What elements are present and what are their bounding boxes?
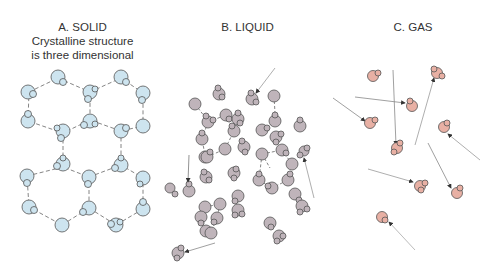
liquid-molecule xyxy=(172,245,184,261)
gas-motion-arrows xyxy=(333,70,480,250)
ice-molecule xyxy=(80,201,97,216)
liquid-molecule xyxy=(294,117,306,132)
gas-arrow xyxy=(333,98,365,121)
ice-molecule xyxy=(54,155,71,171)
liquid-molecule xyxy=(202,113,216,128)
ice-molecule xyxy=(54,124,70,142)
gas-molecule xyxy=(407,98,418,112)
gas-molecule xyxy=(368,70,382,82)
liquid-molecule xyxy=(211,212,223,225)
liquid-molecule xyxy=(265,182,278,194)
ice-molecule xyxy=(114,70,130,86)
gas-arrow xyxy=(448,134,480,160)
liquid-molecule xyxy=(253,171,265,186)
gas-molecule xyxy=(439,120,451,133)
gas-molecule xyxy=(377,212,389,224)
gas-arrow xyxy=(428,143,451,188)
liquid-molecule xyxy=(296,200,310,215)
liquid-molecule xyxy=(214,198,226,210)
ice-molecule xyxy=(20,169,34,187)
states-of-water-diagram: A. SOLID Crystalline structure is three … xyxy=(0,0,496,270)
liquid-molecule xyxy=(256,148,268,160)
ice-molecule xyxy=(81,114,99,129)
gas-molecule xyxy=(365,117,379,129)
ice-molecule xyxy=(136,199,150,217)
ice-molecule xyxy=(21,85,37,99)
liquid-molecule xyxy=(165,183,178,197)
liquid-molecule xyxy=(264,217,276,230)
liquid-molecule xyxy=(270,131,284,145)
ice-molecule xyxy=(114,124,130,138)
liquid-molecule xyxy=(200,169,212,183)
liquid-arrow xyxy=(304,158,314,198)
ice-molecule xyxy=(112,155,129,172)
liquid-molecule xyxy=(286,158,298,170)
gas-arrow xyxy=(393,70,396,145)
liquid-molecule xyxy=(196,130,208,145)
liquid-molecule xyxy=(183,181,195,197)
liquid-molecule xyxy=(213,85,225,100)
liquid-molecule xyxy=(268,90,280,102)
gas-molecules xyxy=(365,66,464,223)
liquid-molecule xyxy=(220,109,232,122)
gas-molecule xyxy=(391,140,403,155)
ice-molecule xyxy=(21,111,35,129)
liquid-molecule xyxy=(232,204,245,218)
solid-molecules xyxy=(20,70,150,232)
ice-molecule xyxy=(136,86,150,104)
liquid-arrow xyxy=(256,68,275,93)
gas-arrow xyxy=(368,169,413,182)
gas-molecule xyxy=(431,66,445,79)
liquid-molecule xyxy=(282,171,294,186)
liquid-molecule xyxy=(228,166,240,181)
ice-molecule xyxy=(136,171,150,187)
ice-molecule xyxy=(108,218,124,232)
ice-molecule xyxy=(22,200,38,214)
ice-molecule xyxy=(136,119,150,133)
liquid-molecule xyxy=(297,145,310,158)
liquid-molecule xyxy=(256,124,270,136)
liquid-molecules xyxy=(165,85,310,261)
diagram-canvas xyxy=(0,0,496,270)
liquid-arrow xyxy=(188,155,189,182)
ice-molecule xyxy=(83,85,98,103)
gas-arrow xyxy=(415,78,434,145)
liquid-molecule xyxy=(232,190,244,204)
liquid-molecule xyxy=(219,143,231,155)
liquid-molecule xyxy=(276,144,289,156)
liquid-arrow xyxy=(185,243,215,252)
gas-molecule xyxy=(452,185,464,199)
ice-molecule xyxy=(82,170,96,188)
liquid-molecule xyxy=(205,227,217,239)
gas-arrow xyxy=(355,97,405,103)
gas-molecule xyxy=(415,180,429,193)
gas-arrow xyxy=(389,222,415,250)
liquid-molecule xyxy=(189,98,201,110)
liquid-molecule xyxy=(238,138,250,155)
liquid-molecule xyxy=(269,112,281,127)
liquid-molecule xyxy=(273,230,286,244)
liquid-molecule xyxy=(195,211,207,226)
ice-molecule xyxy=(55,218,69,232)
ice-molecule xyxy=(51,70,67,86)
